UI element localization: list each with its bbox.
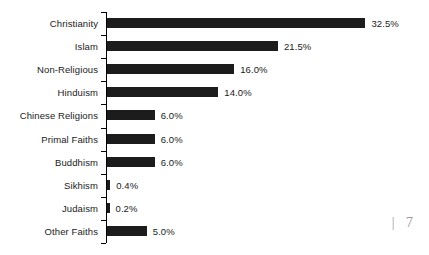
bar — [107, 18, 365, 28]
bar-value-label: 5.0% — [153, 220, 175, 243]
bar — [107, 226, 147, 236]
bar-row: Hinduism14.0% — [0, 81, 429, 104]
bar-row: Other Faiths5.0% — [0, 220, 429, 243]
category-label: Islam — [0, 35, 98, 58]
bar-value-label: 6.0% — [161, 104, 183, 127]
bar — [107, 87, 218, 97]
category-label: Primal Faiths — [0, 128, 98, 151]
category-label: Judaism — [0, 197, 98, 220]
bar-row: Sikhism0.4% — [0, 174, 429, 197]
bar-value-label: 16.0% — [240, 58, 267, 81]
category-label: Chinese Religions — [0, 104, 98, 127]
bar-value-label: 6.0% — [161, 128, 183, 151]
bar — [107, 41, 278, 51]
bar-value-label: 21.5% — [284, 35, 311, 58]
bar-value-label: 14.0% — [224, 81, 251, 104]
bar-row: Christianity32.5% — [0, 12, 429, 35]
bar-row: Chinese Religions6.0% — [0, 104, 429, 127]
bar-row: Non-Religious16.0% — [0, 58, 429, 81]
horizontal-bar-chart: Christianity32.5%Islam21.5%Non-Religious… — [0, 0, 429, 255]
bar-value-label: 0.2% — [116, 197, 138, 220]
page-number-marker: | 7 — [392, 215, 417, 231]
bar-value-label: 6.0% — [161, 151, 183, 174]
bar — [107, 157, 155, 167]
category-label: Non-Religious — [0, 58, 98, 81]
bar — [107, 64, 234, 74]
category-label: Other Faiths — [0, 220, 98, 243]
bar-row: Judaism0.2% — [0, 197, 429, 220]
axis-tick — [101, 243, 106, 244]
category-label: Buddhism — [0, 151, 98, 174]
bar — [107, 180, 110, 190]
category-label: Christianity — [0, 12, 98, 35]
bar-row: Islam21.5% — [0, 35, 429, 58]
bar-row: Buddhism6.0% — [0, 151, 429, 174]
category-label: Hinduism — [0, 81, 98, 104]
bar — [107, 203, 110, 213]
bar — [107, 110, 155, 120]
bar-row: Primal Faiths6.0% — [0, 128, 429, 151]
bar-value-label: 32.5% — [371, 12, 398, 35]
bar — [107, 134, 155, 144]
bar-value-label: 0.4% — [116, 174, 138, 197]
category-label: Sikhism — [0, 174, 98, 197]
